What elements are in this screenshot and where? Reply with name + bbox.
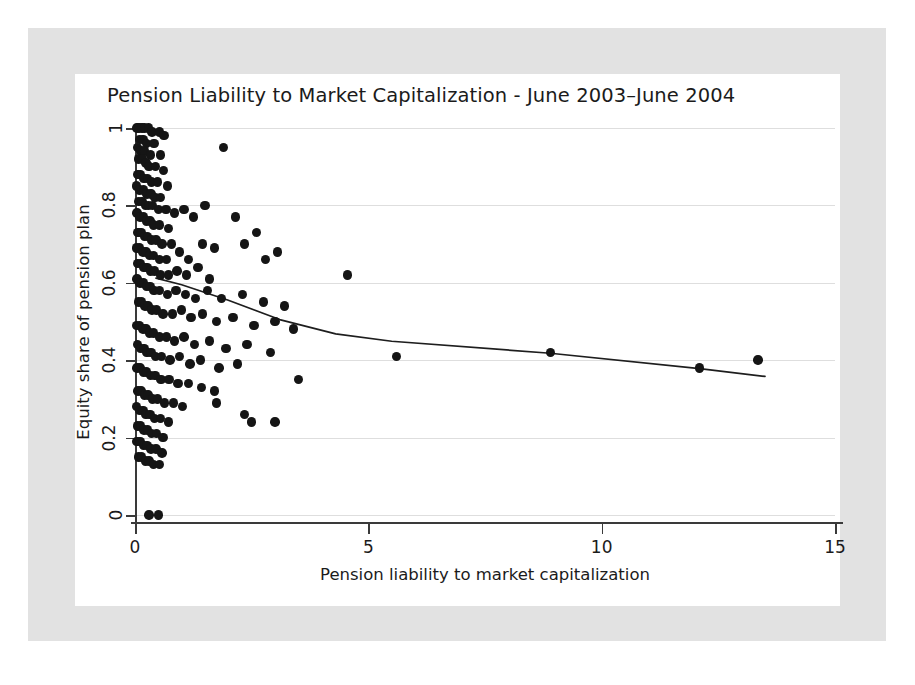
x-axis-tick-label: 15 [824,537,846,557]
scatter-point [196,355,206,365]
scatter-point [198,309,208,319]
scatter-point [163,181,173,191]
scatter-point [179,205,189,215]
scatter-point [343,270,353,280]
scatter-point [185,359,195,369]
scatter-point [270,317,280,327]
scatter-point [160,398,170,408]
scatter-point [169,398,179,408]
x-axis-tick-label: 10 [591,537,613,557]
scatter-point [179,332,189,342]
scatter-point [164,417,174,427]
scatter-point [197,383,207,393]
scatter-point [159,131,169,141]
scatter-point [186,313,196,323]
scatter-point [170,336,180,346]
x-axis-tick-label: 0 [130,537,141,557]
scatter-point [153,177,163,187]
scatter-point [173,379,183,389]
scatter-point [210,386,220,396]
scatter-point [175,247,185,257]
scatter-point [167,239,177,249]
scatter-point [193,263,203,273]
scatter-point [270,417,280,427]
scatter-point [175,352,185,362]
scatter-point [158,433,168,443]
x-axis-tick [135,524,137,534]
trend-line [135,128,835,515]
x-axis-tick [835,524,837,534]
scatter-point [172,266,182,276]
scatter-point [249,321,259,331]
scatter-point [212,398,222,408]
y-axis-tick-label: 1 [107,123,127,134]
scatter-point [228,313,238,323]
scatter-point [158,309,168,319]
y-axis-tick [126,360,135,362]
y-axis-tick-label: 0.2 [98,424,118,451]
scatter-point [210,243,220,253]
scatter-point [753,355,763,365]
scatter-point [144,510,154,520]
scatter-point [695,363,705,373]
scatter-point [155,220,165,230]
y-axis-tick-label: 0.4 [98,347,118,374]
plot-area: 00.20.40.60.81 051015 Equity share of pe… [135,128,835,515]
x-axis-tick [368,524,370,534]
scatter-point [238,290,248,300]
scatter-point [177,305,187,315]
scatter-point [214,363,224,373]
scatter-point [205,274,215,284]
scatter-point [280,301,290,311]
scatter-point [273,247,283,257]
y-axis-tick [126,205,135,207]
scatter-point [171,286,181,296]
scatter-point [168,309,178,319]
scatter-point [217,294,227,304]
y-axis-tick-label: 0.6 [98,269,118,296]
scatter-point [259,297,269,307]
scatter-point [231,212,241,222]
scatter-point [157,448,167,458]
scatter-point [182,270,192,280]
scatter-point [392,352,402,362]
chart-panel: Pension Liability to Market Capitalizati… [75,74,840,606]
figure-root: Pension Liability to Market Capitalizati… [0,0,915,685]
x-axis-line [131,522,843,524]
scatter-point [165,355,175,365]
scatter-point [149,139,159,149]
scatter-point [189,212,199,222]
scatter-point [200,201,210,211]
x-axis-title: Pension liability to market capitalizati… [135,565,835,584]
scatter-point [205,336,215,346]
gridline [135,515,835,516]
x-axis-tick-label: 5 [363,537,374,557]
y-axis-tick-label: 0 [107,510,127,521]
chart-title: Pension Liability to Market Capitalizati… [107,84,735,107]
scatter-point [154,510,164,520]
scatter-point [221,344,231,354]
x-axis-tick [602,524,604,534]
y-axis-title: Equity share of pension plan [74,204,93,439]
y-axis-tick [126,515,135,517]
y-axis-tick-label: 0.8 [98,192,118,219]
scatter-point [157,239,167,249]
